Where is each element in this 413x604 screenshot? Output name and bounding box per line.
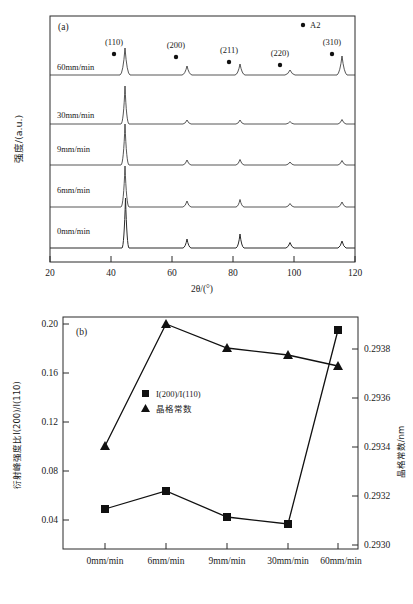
panel-b-ytick-right-2: 0.2934 — [364, 442, 390, 452]
legend-label-lattice-constant: 晶格常数 — [156, 404, 192, 414]
panel-b-xtick-4: 60mm/min — [320, 556, 362, 566]
trace-label-60mm: 60mm/min — [57, 62, 95, 72]
panel-b-left-yticks — [63, 324, 69, 520]
panel-a-label: (a) — [58, 22, 69, 33]
panel-b-xtick-2: 9mm/min — [209, 556, 246, 566]
panel-a-xaxis-label: 2θ/(°) — [191, 284, 213, 295]
panel-b-ytick-left-3: 0.16 — [41, 368, 58, 378]
panel-a-xtick-5: 120 — [348, 268, 363, 278]
panel-b-yaxis-right-label: 晶格常数/nm — [396, 426, 406, 479]
panel-a-xtick-1: 40 — [106, 268, 116, 278]
panel-b-yaxis-left-label: 衍射峰强度比I(200)/I(110) — [12, 381, 22, 489]
trace-label-6mm: 6mm/min — [57, 185, 91, 195]
panel-a-xtick-4: 100 — [287, 268, 302, 278]
square-marker — [334, 326, 342, 334]
peak-label-211: (211) — [220, 45, 238, 55]
panel-b-xticks — [105, 543, 338, 549]
trace-label-30mm: 30mm/min — [57, 110, 95, 120]
panel-a-xticks — [50, 256, 355, 262]
panel-b-ytick-left-4: 0.20 — [41, 319, 58, 329]
square-marker — [101, 505, 109, 513]
panel-a-xtick-0: 20 — [45, 268, 55, 278]
triangle-marker — [161, 319, 171, 328]
panel-b-label: (b) — [76, 327, 87, 338]
peak-label-110: (110) — [105, 37, 123, 47]
panel-b-right-yticks — [352, 349, 358, 545]
panel-a-yaxis-label: 强度/(a.u.) — [13, 115, 24, 164]
series-lattice-constant-line — [105, 324, 338, 446]
panel-a-xtick-3: 80 — [228, 268, 238, 278]
panel-b-legend: I(200)/I(110) 晶格常数 — [141, 389, 201, 414]
figure-container: 20 40 60 80 100 120 2θ/(°) 强度/(a.u.) (a)… — [0, 0, 413, 604]
triangle-marker — [222, 343, 232, 352]
panel-b-xtick-3: 30mm/min — [267, 556, 309, 566]
xrd-trace-30mm — [50, 86, 355, 124]
xrd-trace-9mm — [50, 124, 355, 165]
panel-b-ytick-left-0: 0.04 — [41, 515, 58, 525]
series-intensity-ratio-markers — [101, 326, 342, 528]
panel-b-ytick-right-0: 0.2930 — [364, 540, 390, 550]
triangle-marker — [100, 441, 110, 450]
figure-svg: 20 40 60 80 100 120 2θ/(°) 强度/(a.u.) (a)… — [0, 0, 413, 604]
panel-b-xtick-1: 6mm/min — [148, 556, 185, 566]
peak-dot-310 — [330, 52, 334, 56]
panel-b-ytick-left-1: 0.08 — [41, 466, 58, 476]
square-marker — [284, 520, 292, 528]
peak-dot-110 — [112, 52, 116, 56]
panel-b-ytick-right-1: 0.2932 — [364, 491, 390, 501]
peak-label-220: (220) — [271, 48, 290, 58]
peak-dot-220 — [278, 63, 282, 67]
panel-a: 20 40 60 80 100 120 2θ/(°) 强度/(a.u.) (a)… — [13, 16, 362, 295]
series-intensity-ratio-line — [105, 330, 338, 524]
xrd-trace-60mm — [50, 48, 355, 75]
square-marker — [162, 487, 170, 495]
panel-b-xtick-0: 0mm/min — [87, 556, 124, 566]
panel-b-ytick-left-2: 0.12 — [41, 417, 58, 427]
panel-a-frame — [50, 16, 355, 262]
legend-label-intensity-ratio: I(200)/I(110) — [156, 389, 201, 399]
peak-dot-200 — [174, 55, 178, 59]
panel-b: (b) 0.04 0.08 0.12 0.16 0.20 0.2930 0.29… — [12, 317, 406, 566]
peak-label-200: (200) — [167, 40, 186, 50]
peak-dot-211 — [227, 60, 231, 64]
xrd-trace-6mm — [50, 166, 355, 207]
legend-triangle-marker-icon — [141, 404, 150, 412]
panel-b-ytick-right-3: 0.2936 — [364, 393, 390, 403]
panel-b-ytick-right-4: 0.2938 — [364, 344, 390, 354]
xrd-trace-0mm — [50, 198, 355, 248]
a2-legend-dot-icon — [301, 23, 305, 27]
legend-square-marker-icon — [142, 390, 149, 397]
panel-a-xtick-2: 60 — [167, 268, 177, 278]
peak-label-310: (310) — [323, 37, 342, 47]
panel-b-frame — [63, 317, 358, 549]
trace-label-9mm: 9mm/min — [57, 144, 91, 154]
square-marker — [223, 513, 231, 521]
a2-legend-label: A2 — [310, 20, 320, 30]
trace-label-0mm: 0mm/min — [57, 226, 91, 236]
